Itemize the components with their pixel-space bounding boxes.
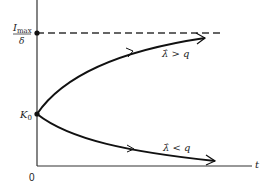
lower-curve-label: λ̂ < q [162,142,190,153]
imax-point [34,30,39,35]
x-axis-label: t [255,159,260,170]
k0-label: K0 [19,109,32,122]
origin-label: 0 [29,172,35,183]
lower-curve [37,114,215,161]
imax-label-numerator: Imax [12,22,32,35]
imax-label-denominator: δ [19,36,24,46]
diagram-canvas: Imax δ K0 0 t λ̂ > q λ̂ < q [0,0,271,185]
upper-curve-label: λ̂ > q [161,48,189,59]
